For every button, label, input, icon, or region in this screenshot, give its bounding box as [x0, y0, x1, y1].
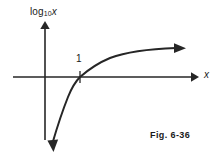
curve-down-arrowhead — [47, 139, 58, 152]
log-curve — [53, 48, 177, 143]
y-axis-label: log10x — [30, 7, 57, 17]
x-axis-arrowhead — [191, 72, 199, 82]
y-axis-arrowhead — [40, 21, 49, 29]
y-axis-label-variable: x — [52, 6, 57, 17]
y-axis-label-base: 10 — [44, 10, 52, 17]
y-axis-label-prefix: log — [30, 6, 44, 17]
figure-caption: Fig. 6-36 — [150, 131, 190, 140]
curve-right-arrowhead — [174, 43, 186, 53]
figure-container: log10x x 1 Fig. 6-36 — [0, 0, 218, 156]
x-axis-label: x — [204, 70, 209, 80]
x-tick-label-1: 1 — [76, 54, 82, 64]
